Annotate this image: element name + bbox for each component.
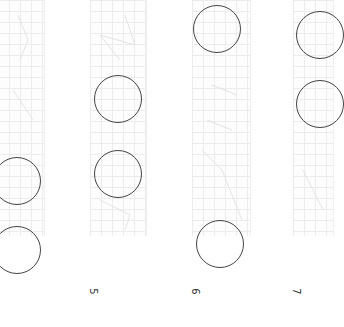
circle-4 xyxy=(94,150,142,198)
circle-5 xyxy=(193,5,241,53)
circle-7 xyxy=(296,11,344,59)
circle-2 xyxy=(0,226,41,274)
circle-3 xyxy=(94,75,142,123)
circle-8 xyxy=(296,80,344,128)
column-label-5: 5 xyxy=(88,288,99,294)
column-label-7: 7 xyxy=(291,288,302,294)
circle-6 xyxy=(196,220,244,268)
column-label-6: 6 xyxy=(190,288,201,294)
